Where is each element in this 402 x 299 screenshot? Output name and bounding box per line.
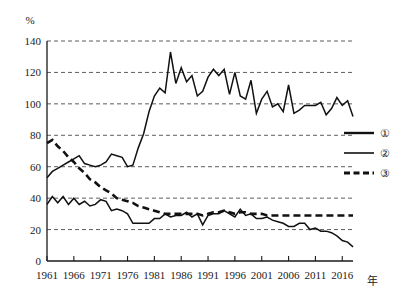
- y-tick-label: 140: [25, 35, 42, 47]
- y-tick-label: 60: [30, 161, 42, 173]
- y-tick-label: 80: [30, 129, 42, 141]
- y-tick-label: 120: [25, 66, 42, 78]
- y-tick-label: 40: [30, 192, 42, 204]
- chart-legend: ①②③: [344, 127, 390, 179]
- x-tick-label: 1961: [36, 269, 58, 281]
- y-tick-label: 0: [36, 255, 42, 267]
- x-tick-label: 1991: [197, 269, 219, 281]
- gridlines: [47, 41, 353, 230]
- x-tick-label: 1981: [143, 269, 165, 281]
- x-axis-label: 年: [367, 274, 378, 287]
- legend-label-1: ①: [380, 127, 390, 139]
- x-tick-label: 1971: [90, 269, 112, 281]
- legend-label-2: ②: [380, 147, 390, 159]
- data-series-group: [47, 52, 353, 247]
- x-tick-label: 2016: [331, 269, 354, 281]
- series-line-2: [47, 197, 353, 247]
- chart-container: % 020406080100120140 1961196619711976198…: [0, 0, 402, 299]
- y-tick-label: 20: [30, 224, 42, 236]
- x-tick-label: 2001: [251, 269, 273, 281]
- x-tick-label: 2006: [278, 269, 301, 281]
- x-axis-ticks: 1961196619711976198119861991199620012006…: [36, 256, 354, 281]
- x-tick-label: 2011: [305, 269, 327, 281]
- legend-label-3: ③: [380, 167, 390, 179]
- x-tick-label: 1986: [170, 269, 193, 281]
- x-tick-label: 1966: [63, 269, 86, 281]
- series-line-1: [47, 52, 353, 178]
- line-chart: % 020406080100120140 1961196619711976198…: [0, 0, 402, 299]
- y-axis-unit-label: %: [25, 14, 34, 26]
- x-tick-label: 1976: [117, 269, 140, 281]
- y-axis-tick-labels: 020406080100120140: [25, 35, 42, 267]
- x-tick-label: 1996: [224, 269, 247, 281]
- series-line-3: [47, 140, 353, 215]
- y-tick-label: 100: [25, 98, 42, 110]
